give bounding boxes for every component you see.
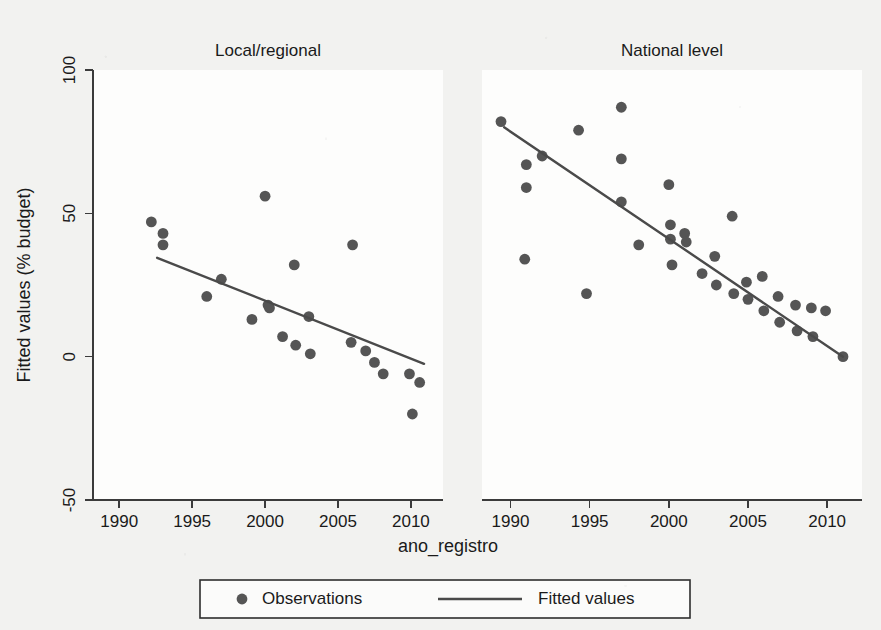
data-point — [633, 239, 644, 250]
x-tick-label: 2000 — [246, 512, 284, 531]
plot-area-background — [93, 70, 443, 500]
data-point — [697, 268, 708, 279]
x-tick-label: 1995 — [571, 512, 609, 531]
plot-area-background — [482, 70, 862, 500]
data-point — [378, 368, 389, 379]
data-point — [757, 271, 768, 282]
data-point — [616, 102, 627, 113]
chart-figure: Local/regional-5005010019901995200020052… — [0, 0, 881, 630]
data-point — [774, 317, 785, 328]
data-point — [360, 346, 371, 357]
data-point — [616, 153, 627, 164]
panel-national-level: National level19901995200020052010 — [482, 41, 862, 531]
data-point — [709, 251, 720, 262]
data-point — [741, 277, 752, 288]
chart-legend: ObservationsFitted values — [200, 580, 690, 618]
data-point — [681, 237, 692, 248]
panel-title: Local/regional — [215, 41, 321, 60]
data-point — [727, 211, 738, 222]
data-point — [247, 314, 258, 325]
data-point — [581, 288, 592, 299]
x-tick-label: 1990 — [492, 512, 530, 531]
panel-local-regional: Local/regional-5005010019901995200020052… — [60, 41, 443, 531]
data-point — [369, 357, 380, 368]
data-point — [667, 260, 678, 271]
data-point — [158, 239, 169, 250]
data-point — [820, 305, 831, 316]
data-point — [711, 280, 722, 291]
legend-fitted-values-label: Fitted values — [538, 589, 634, 608]
data-point — [146, 217, 157, 228]
x-tick-label: 2005 — [729, 512, 767, 531]
data-point — [521, 182, 532, 193]
data-point — [573, 125, 584, 136]
y-tick-label: 0 — [60, 352, 79, 361]
x-tick-label: 1995 — [173, 512, 211, 531]
legend-observations-marker — [237, 594, 248, 605]
data-point — [663, 179, 674, 190]
x-tick-label: 2010 — [392, 512, 430, 531]
data-point — [201, 291, 212, 302]
x-tick-label: 1990 — [100, 512, 138, 531]
data-point — [260, 191, 271, 202]
data-point — [519, 254, 530, 265]
data-point — [773, 291, 784, 302]
data-point — [407, 409, 418, 420]
data-point — [347, 239, 358, 250]
data-point — [289, 260, 300, 271]
data-point — [305, 348, 316, 359]
x-tick-label: 2010 — [808, 512, 846, 531]
x-tick-label: 2005 — [319, 512, 357, 531]
data-point — [414, 377, 425, 388]
data-point — [665, 219, 676, 230]
y-tick-label: 50 — [60, 204, 79, 223]
x-axis-title: ano_registro — [398, 536, 498, 557]
data-point — [728, 288, 739, 299]
data-point — [404, 368, 415, 379]
panel-title: National level — [621, 41, 723, 60]
data-point — [277, 331, 288, 342]
x-tick-label: 2000 — [650, 512, 688, 531]
data-point — [346, 337, 357, 348]
data-point — [806, 303, 817, 314]
legend-observations-label: Observations — [262, 589, 362, 608]
data-point — [496, 116, 507, 127]
data-point — [790, 300, 801, 311]
data-point — [521, 159, 532, 170]
y-axis-title: Fitted values (% budget) — [14, 187, 34, 382]
y-tick-label: -50 — [60, 488, 79, 513]
data-point — [158, 228, 169, 239]
data-point — [290, 340, 301, 351]
chart-svg: Local/regional-5005010019901995200020052… — [0, 0, 881, 630]
y-tick-label: 100 — [60, 56, 79, 84]
